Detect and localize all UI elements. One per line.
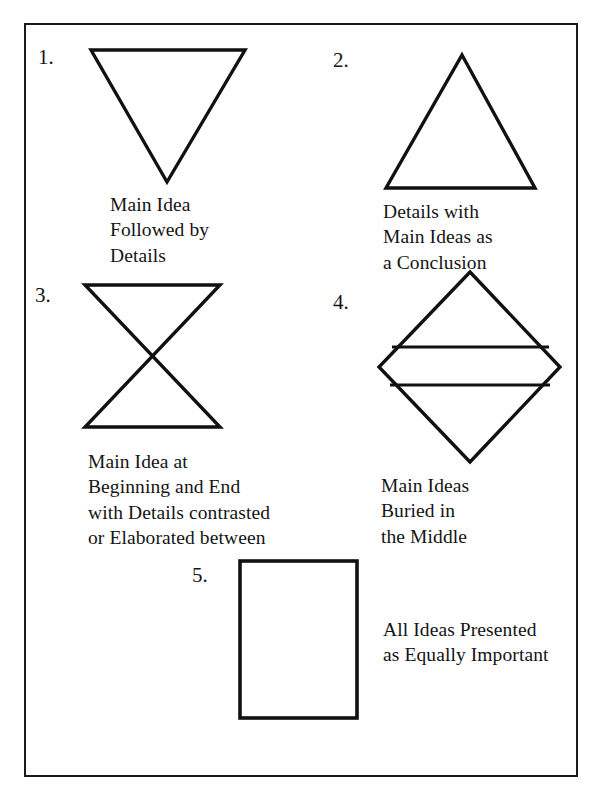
item-number-1: 1. xyxy=(38,47,54,68)
caption-item-1: Main Idea Followed by Details xyxy=(110,192,209,268)
caption-item-4: Main Ideas Buried in the Middle xyxy=(381,473,469,549)
page-title: Text Structure Patterns Diagram xyxy=(0,21,1,22)
item-number-4: 4. xyxy=(333,292,349,313)
item-number-2: 2. xyxy=(333,50,349,71)
figure-canvas: 1. 2. 3. 4. 5. Main Idea Followed by Det… xyxy=(0,0,600,789)
caption-item-3: Main Idea at Beginning and End with Deta… xyxy=(88,449,270,550)
caption-item-2: Details with Main Ideas as a Conclusion xyxy=(383,199,493,275)
caption-item-5: All Ideas Presented as Equally Important xyxy=(383,617,549,668)
item-number-3: 3. xyxy=(35,285,51,306)
item-number-5: 5. xyxy=(192,565,208,586)
